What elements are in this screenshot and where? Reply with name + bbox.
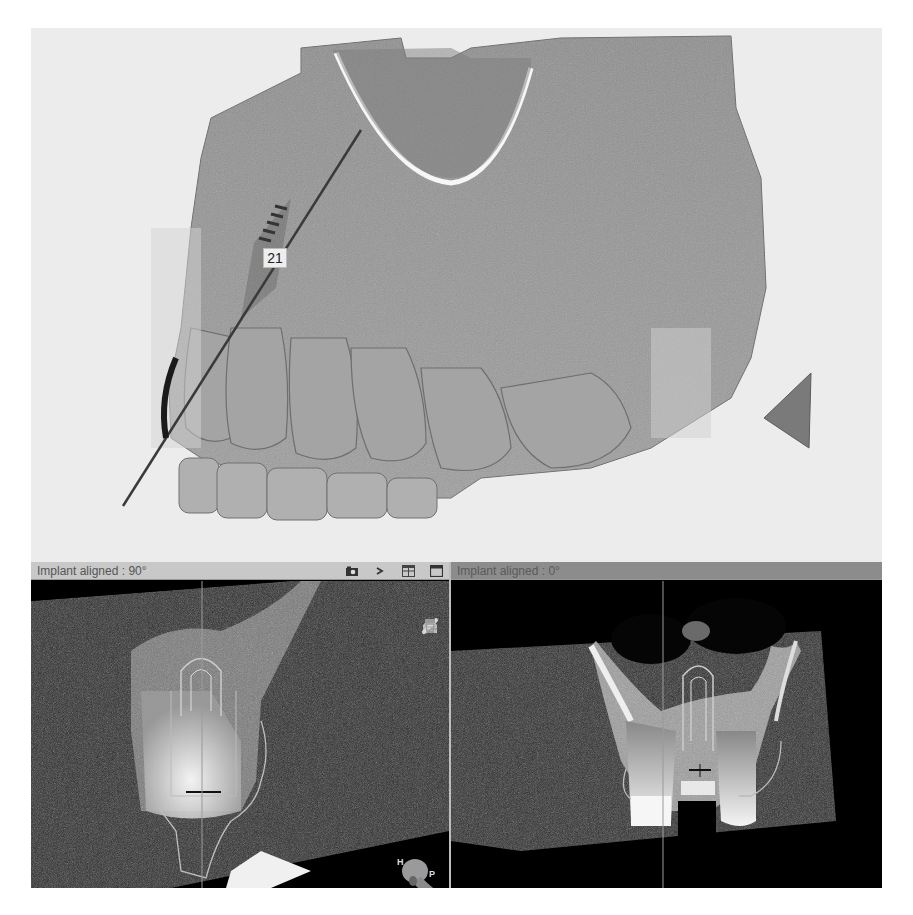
implant-number-label[interactable]: 21 bbox=[263, 248, 287, 268]
orientation-head-label: H bbox=[397, 857, 404, 867]
implant-library-icon bbox=[421, 617, 439, 635]
cross-section-view-90[interactable]: Implant aligned : 90° bbox=[31, 562, 449, 888]
maximize-button[interactable] bbox=[429, 565, 443, 577]
ct-slice-image-0 bbox=[451, 581, 882, 888]
pane-header: Implant aligned : 90° bbox=[31, 562, 449, 580]
pane-header: Implant aligned : 0° bbox=[451, 562, 882, 580]
layout-grid-button[interactable] bbox=[401, 565, 415, 577]
implant-planning-app: 21 Implant aligned : 90° bbox=[31, 28, 882, 888]
pane-title: Implant aligned : 90° bbox=[37, 562, 147, 580]
pane-toolbar bbox=[345, 562, 443, 580]
screenshot-icon bbox=[345, 566, 359, 577]
3d-volume-view[interactable]: 21 bbox=[31, 28, 882, 562]
cross-section-view-0[interactable]: Implant aligned : 0° bbox=[451, 562, 882, 888]
ct-slice-image-90 bbox=[31, 581, 449, 888]
maximize-window-icon bbox=[430, 565, 443, 577]
screenshot-button[interactable] bbox=[345, 565, 359, 577]
orientation-posterior-label: P bbox=[429, 869, 435, 879]
ct-slice-sagittal[interactable]: H P bbox=[31, 581, 449, 888]
side-toolbar bbox=[421, 617, 439, 725]
3d-maxilla-render bbox=[31, 28, 882, 562]
next-icon bbox=[376, 567, 384, 575]
orientation-head-widget[interactable]: H P bbox=[393, 849, 439, 888]
ct-slice-coronal[interactable] bbox=[451, 581, 882, 888]
nerve-tool[interactable] bbox=[421, 647, 439, 665]
slice-views: Implant aligned : 90° bbox=[31, 562, 882, 888]
implant-library-tool[interactable] bbox=[421, 707, 439, 725]
pane-title: Implant aligned : 0° bbox=[457, 562, 560, 580]
layout-grid-icon bbox=[402, 565, 415, 577]
next-button[interactable] bbox=[373, 565, 387, 577]
measure-tool[interactable] bbox=[421, 677, 439, 695]
